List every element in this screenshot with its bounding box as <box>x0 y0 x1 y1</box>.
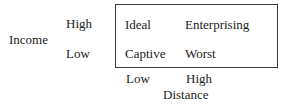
x-axis-tick-high: High <box>186 72 212 85</box>
x-axis-tick-low: Low <box>126 72 150 85</box>
y-axis-tick-high: High <box>66 17 92 30</box>
matrix-cell-bottom-left: Captive <box>125 47 165 60</box>
y-axis-title: Income <box>9 33 48 46</box>
y-axis-tick-low: Low <box>66 47 90 60</box>
matrix-cell-top-right: Enterprising <box>185 18 249 31</box>
matrix-cell-bottom-right: Worst <box>185 47 216 60</box>
matrix-box: Ideal Enterprising Captive Worst <box>115 4 278 68</box>
matrix-diagram: Income High Low Ideal Enterprising Capti… <box>0 0 289 106</box>
matrix-cell-top-left: Ideal <box>125 18 151 31</box>
x-axis-title: Distance <box>163 88 208 101</box>
